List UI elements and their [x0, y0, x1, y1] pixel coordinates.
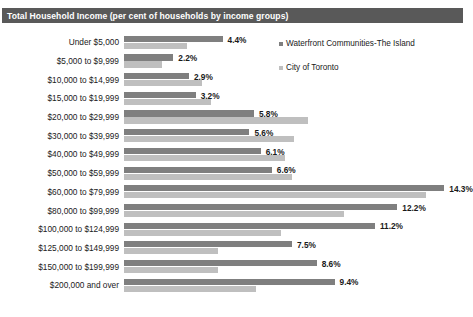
bar-city-of-toronto — [124, 61, 162, 67]
bar-city-of-toronto — [124, 43, 187, 49]
chart-row: $200,000 and over9.4% — [0, 276, 467, 295]
bar-group: 7.5% — [124, 240, 467, 256]
bar-city-of-toronto — [124, 155, 285, 161]
bar-group: 4.4% — [124, 34, 467, 50]
bar-waterfront — [124, 260, 317, 266]
category-label: $40,000 to $49,999 — [0, 149, 124, 159]
bar-city-of-toronto — [124, 211, 344, 217]
category-label: Under $5,000 — [0, 37, 124, 47]
category-label: $200,000 and over — [0, 280, 124, 290]
chart-row: $5,000 to $9,9992.2% — [0, 52, 467, 71]
bar-group: 5.8% — [124, 109, 467, 125]
bar-group: 11.2% — [124, 221, 467, 237]
chart-row: $100,000 to $124,99911.2% — [0, 220, 467, 239]
chart-row: $50,000 to $59,9996.6% — [0, 164, 467, 183]
bar-group: 2.9% — [124, 72, 467, 88]
bar-group: 12.2% — [124, 203, 467, 219]
bar-value-label: 4.4% — [228, 35, 247, 45]
bar-group: 6.1% — [124, 146, 467, 162]
category-label: $60,000 to $79,999 — [0, 187, 124, 197]
bar-group: 9.4% — [124, 277, 467, 293]
bar-city-of-toronto — [124, 99, 211, 105]
bar-waterfront — [124, 110, 254, 116]
bar-waterfront — [124, 129, 249, 135]
bar-waterfront — [124, 167, 272, 173]
bar-city-of-toronto — [124, 174, 292, 180]
bar-value-label: 3.2% — [201, 91, 220, 101]
chart-row: $150,000 to $199,9998.6% — [0, 257, 467, 276]
category-label: $20,000 to $29,999 — [0, 112, 124, 122]
bar-waterfront — [124, 73, 189, 79]
bar-value-label: 14.3% — [449, 184, 473, 194]
bar-group: 8.6% — [124, 259, 467, 275]
bar-city-of-toronto — [124, 286, 256, 292]
category-label: $30,000 to $39,999 — [0, 131, 124, 141]
bar-waterfront — [124, 204, 397, 210]
bar-waterfront — [124, 92, 196, 98]
category-label: $5,000 to $9,999 — [0, 56, 124, 66]
bar-value-label: 7.5% — [297, 240, 316, 250]
bar-waterfront — [124, 279, 335, 285]
chart-row: Under $5,0004.4% — [0, 33, 467, 52]
category-label: $15,000 to $19,999 — [0, 93, 124, 103]
bar-waterfront — [124, 36, 223, 42]
bar-value-label: 6.1% — [266, 147, 285, 157]
chart-row: $20,000 to $29,9995.8% — [0, 108, 467, 127]
bar-waterfront — [124, 223, 375, 229]
bar-value-label: 2.2% — [178, 53, 197, 63]
bar-city-of-toronto — [124, 80, 202, 86]
chart-row: $30,000 to $39,9995.6% — [0, 126, 467, 145]
bar-waterfront — [124, 54, 173, 60]
category-label: $80,000 to $99,999 — [0, 206, 124, 216]
category-label: $10,000 to $14,999 — [0, 75, 124, 85]
bar-value-label: 11.2% — [380, 221, 403, 231]
bar-value-label: 12.2% — [402, 203, 426, 213]
page-title: Total Household Income (per cent of hous… — [2, 11, 288, 21]
category-label: $100,000 to $124,999 — [0, 224, 124, 234]
chart-row: $40,000 to $49,9996.1% — [0, 145, 467, 164]
bar-city-of-toronto — [124, 117, 308, 123]
bar-value-label: 8.6% — [322, 259, 341, 269]
bar-group: 6.6% — [124, 165, 467, 181]
category-label: $125,000 to $149,999 — [0, 243, 124, 253]
chart-row: $125,000 to $149,9997.5% — [0, 239, 467, 258]
bar-city-of-toronto — [124, 230, 281, 236]
category-label: $50,000 to $59,999 — [0, 168, 124, 178]
bar-value-label: 6.6% — [277, 165, 296, 175]
bar-waterfront — [124, 148, 261, 154]
chart-row: $60,000 to $79,99914.3% — [0, 183, 467, 202]
bar-value-label: 5.8% — [259, 109, 278, 119]
bar-city-of-toronto — [124, 248, 218, 254]
bar-value-label: 9.4% — [340, 277, 359, 287]
bar-group: 2.2% — [124, 53, 467, 69]
bar-value-label: 2.9% — [194, 72, 213, 82]
bar-value-label: 5.6% — [254, 128, 273, 138]
chart-row: $10,000 to $14,9992.9% — [0, 70, 467, 89]
chart-row: $80,000 to $99,99912.2% — [0, 201, 467, 220]
category-label: $150,000 to $199,999 — [0, 262, 124, 272]
chart-row: $15,000 to $19,9993.2% — [0, 89, 467, 108]
chart-plot-area: Under $5,0004.4%$5,000 to $9,9992.2%$10,… — [0, 33, 467, 305]
bar-waterfront — [124, 241, 292, 247]
bar-city-of-toronto — [124, 192, 426, 198]
bar-group: 3.2% — [124, 90, 467, 106]
bar-group: 5.6% — [124, 128, 467, 144]
bar-waterfront — [124, 185, 444, 191]
chart-title-bar: Total Household Income (per cent of hous… — [2, 8, 463, 23]
bar-city-of-toronto — [124, 267, 218, 273]
bar-group: 14.3% — [124, 184, 467, 200]
